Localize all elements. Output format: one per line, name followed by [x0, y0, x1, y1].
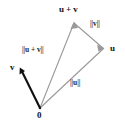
edge-label-norm-u-plus-v: ||u + v||	[22, 46, 44, 54]
origin-dot	[39, 107, 41, 109]
edge-origin-to-u-plus-v	[40, 23, 74, 108]
edge-label-norm-u: ||u||	[70, 79, 80, 87]
point-label-u-plus-v: u + v	[59, 5, 78, 14]
edge-label-norm-v: ||v||	[90, 20, 100, 28]
vector-diagram-figure: u + v u v 0 ||v|| ||u + v|| ||u||	[0, 0, 125, 125]
point-label-origin: 0	[37, 111, 41, 120]
point-label-v: v	[10, 63, 14, 72]
diagram-canvas	[0, 0, 125, 125]
point-label-u: u	[110, 44, 115, 53]
vector-v-line	[21, 70, 40, 109]
